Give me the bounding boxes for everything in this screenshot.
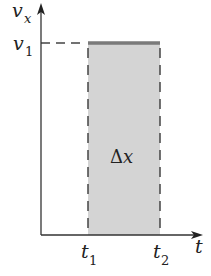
area-label-var: x — [123, 146, 133, 167]
v1-label: v — [13, 32, 24, 54]
x-axis-label: t — [195, 235, 203, 257]
area-label-delta: Δ — [110, 146, 123, 167]
t1-label: t — [81, 240, 89, 262]
displacement-area — [88, 43, 160, 235]
t1-label-subscript: 1 — [89, 253, 97, 268]
t2-label: t — [153, 240, 161, 262]
velocity-time-graph: v x v 1 Δ x t 1 t 2 t — [0, 0, 211, 276]
v1-label-subscript: 1 — [25, 44, 33, 59]
y-axis-label: v — [12, 0, 23, 21]
t2-label-subscript: 2 — [161, 253, 169, 268]
y-axis-label-subscript: x — [24, 11, 32, 26]
